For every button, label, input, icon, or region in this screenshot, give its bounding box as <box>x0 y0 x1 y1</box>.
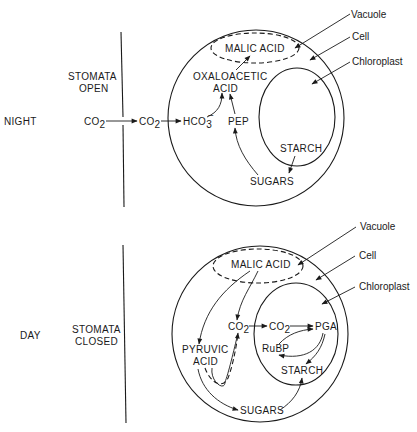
pep-label: PEP <box>228 116 249 127</box>
oxaloacetic-acid-line1: OXALOACETIC <box>193 71 267 82</box>
starch-night: STARCH <box>280 143 322 154</box>
stomata-closed-label-line1: STOMATA <box>72 324 121 335</box>
day-panel: DAY STOMATA CLOSED MALIC ACID CO2 CO2 PG… <box>20 221 410 423</box>
arrow-pep-to-oaa <box>230 94 235 114</box>
co2-inside: CO2 <box>139 116 161 130</box>
leader-chloroplast-day <box>322 287 355 304</box>
pga-label: PGA <box>315 321 337 332</box>
stomata-open-label-line2: OPEN <box>79 83 109 94</box>
starch-day: STARCH <box>281 365 323 376</box>
arrow-starch-to-sugars <box>289 156 295 173</box>
callout-cell-day: Cell <box>359 250 376 261</box>
leader-cell-night <box>310 37 350 60</box>
callout-chloroplast-night: Chloroplast <box>352 56 403 67</box>
leader-cell-day <box>316 256 355 280</box>
stomata-open-label-line1: STOMATA <box>68 71 117 82</box>
leader-vacuole-night <box>295 14 350 48</box>
day-label: DAY <box>20 330 41 341</box>
night-panel: NIGHT STOMATA OPEN CO2 CO2 MALIC ACID OX… <box>4 9 403 207</box>
callout-vacuole-night: Vacuole <box>351 9 387 20</box>
pyruvic-acid-line1: PYRUVIC <box>182 344 229 355</box>
bicarbonate: HCO3− <box>183 110 214 130</box>
malic-acid-night: MALIC ACID <box>225 43 285 54</box>
oxaloacetic-acid-line2: ACID <box>213 83 238 94</box>
malic-acid-day: MALIC ACID <box>231 259 291 270</box>
sugars-day: SUGARS <box>240 405 284 416</box>
callout-chloroplast-day: Chloroplast <box>359 281 410 292</box>
rubp-label: RuBP <box>262 343 289 354</box>
arrow-pyruvic-to-sugars <box>198 369 238 410</box>
epidermis-line-day <box>123 245 126 423</box>
leader-chloroplast-night <box>312 62 350 84</box>
co2-cytoplasm: CO2 <box>228 321 250 335</box>
callout-vacuole-day: Vacuole <box>360 221 396 232</box>
epidermis-line-upper <box>121 32 123 117</box>
stomata-closed-label-line2: CLOSED <box>75 336 118 347</box>
callout-cell-night: Cell <box>352 31 369 42</box>
co2-chloroplast: CO2 <box>269 321 291 335</box>
epidermis-line-lower <box>123 125 124 207</box>
sugars-night: SUGARS <box>250 176 294 187</box>
cam-photosynthesis-diagram: NIGHT STOMATA OPEN CO2 CO2 MALIC ACID OX… <box>0 0 417 432</box>
pyruvic-acid-line2: ACID <box>193 356 218 367</box>
arrow-pga-to-starch <box>306 334 325 364</box>
leader-vacuole-day <box>298 227 356 265</box>
arrow-sugars-to-pep <box>235 128 258 175</box>
cell-membrane-day <box>172 246 348 422</box>
night-label: NIGHT <box>4 116 37 127</box>
co2-outside: CO2 <box>84 116 106 130</box>
